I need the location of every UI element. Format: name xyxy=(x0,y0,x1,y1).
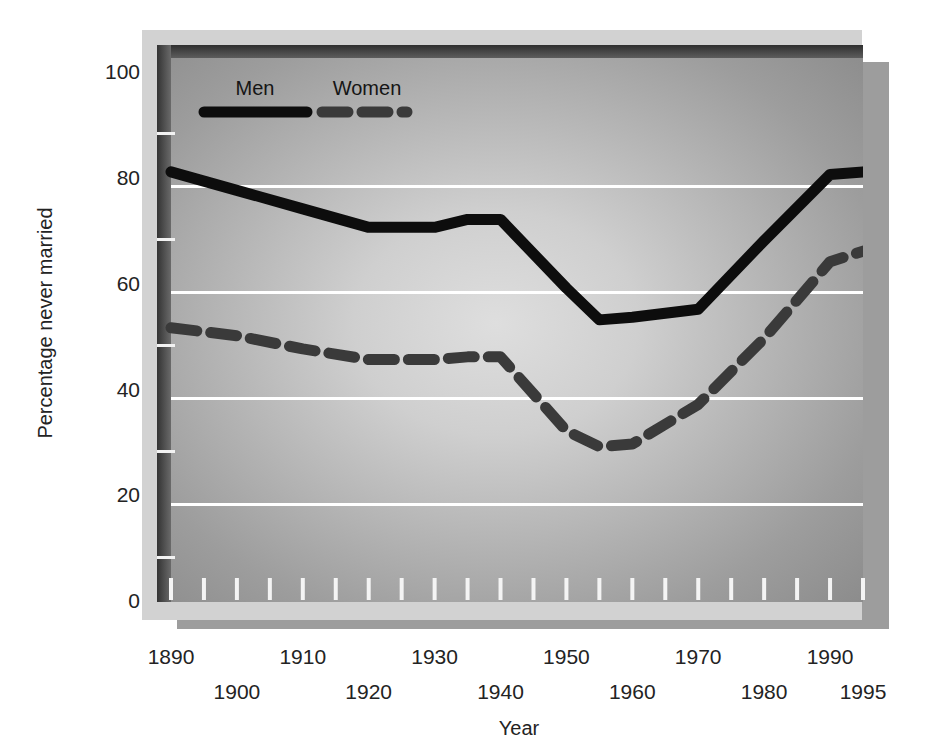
x-tick-label: 1890 xyxy=(148,645,195,668)
y-tick-label: 20 xyxy=(117,483,140,506)
x-tick-label: 1930 xyxy=(411,645,458,668)
x-tick-label: 1940 xyxy=(477,680,524,703)
plot-top-bevel xyxy=(157,45,863,58)
chart-container: Men Women 020406080100 18901900191019201… xyxy=(0,0,939,755)
x-axis-title: Year xyxy=(499,717,540,739)
y-tick-label: 0 xyxy=(128,589,140,612)
legend-label-men: Men xyxy=(236,77,275,99)
x-tick-label: 1960 xyxy=(609,680,656,703)
x-tick-label: 1990 xyxy=(807,645,854,668)
y-tick-label: 40 xyxy=(117,378,140,401)
x-tick-label: 1980 xyxy=(741,680,788,703)
y-axis-tick-labels: 020406080100 xyxy=(105,60,140,612)
legend-label-women: Women xyxy=(333,77,402,99)
x-tick-label: 1950 xyxy=(543,645,590,668)
never-married-line-chart: Men Women 020406080100 18901900191019201… xyxy=(0,0,939,755)
y-axis-title: Percentage never married xyxy=(34,207,56,438)
x-tick-label: 1920 xyxy=(345,680,392,703)
x-tick-label: 1995 xyxy=(840,680,887,703)
x-tick-label: 1900 xyxy=(214,680,261,703)
y-tick-label: 80 xyxy=(117,166,140,189)
x-axis-tick-labels: 1890190019101920193019401950196019701980… xyxy=(148,645,887,703)
x-tick-label: 1910 xyxy=(279,645,326,668)
plot-area-background xyxy=(157,45,863,602)
x-tick-label: 1970 xyxy=(675,645,722,668)
y-tick-label: 100 xyxy=(105,60,140,83)
y-tick-label: 60 xyxy=(117,272,140,295)
